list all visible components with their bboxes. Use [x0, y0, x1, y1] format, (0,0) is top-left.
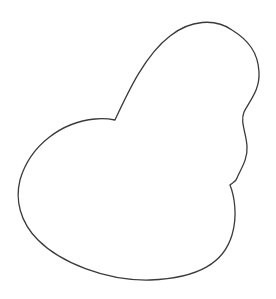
blob-outline-shape [0, 0, 276, 299]
drawing-canvas [0, 0, 276, 299]
outline-path [18, 22, 259, 280]
